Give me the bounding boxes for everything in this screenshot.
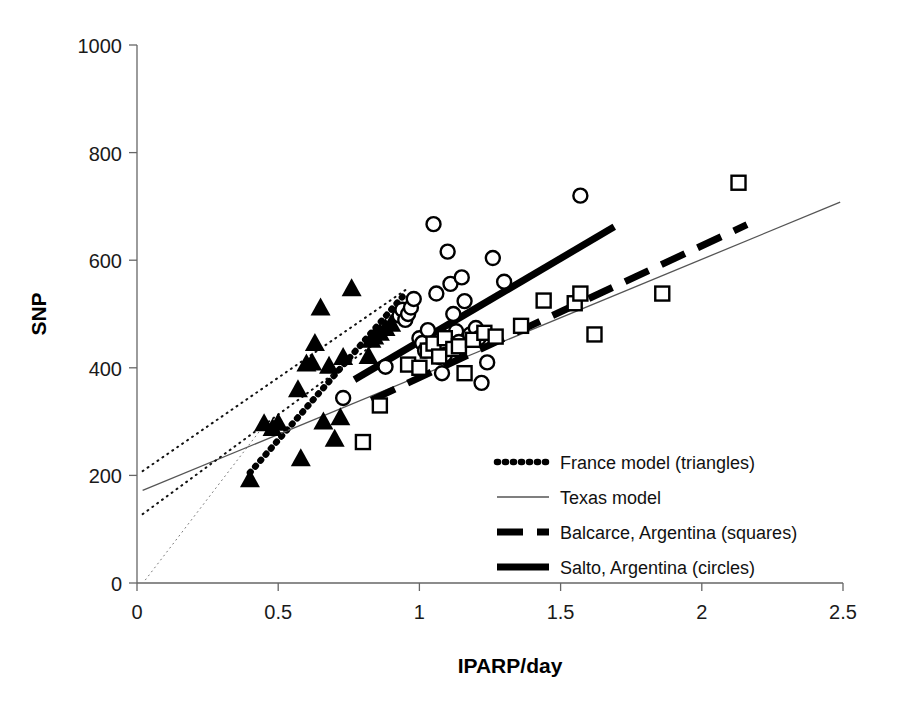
data-point-square	[412, 361, 426, 375]
data-point-triangle	[305, 333, 325, 351]
data-point-square	[489, 330, 503, 344]
legend-label: Texas model	[560, 488, 661, 508]
x-tick-label: 1	[414, 601, 425, 623]
data-point-circle	[336, 391, 350, 405]
data-point-circle	[407, 292, 421, 306]
x-tick-label: 2	[696, 601, 707, 623]
data-point-triangle	[342, 278, 362, 296]
data-point-circle	[486, 251, 500, 265]
data-point-circle	[497, 275, 511, 289]
x-tick-label: 2.5	[829, 601, 857, 623]
data-point-circle	[379, 360, 393, 374]
data-point-square	[655, 287, 669, 301]
y-tick-label: 1000	[78, 35, 123, 57]
data-point-square	[373, 398, 387, 412]
x-tick-label: 0.5	[264, 601, 292, 623]
data-point-triangle	[311, 298, 331, 316]
legend-label: Balcarce, Argentina (squares)	[560, 523, 797, 543]
data-point-circle	[446, 307, 460, 321]
y-tick-label: 0	[111, 573, 122, 595]
legend-label: France model (triangles)	[560, 453, 755, 473]
data-point-circle	[421, 323, 435, 337]
data-point-square	[356, 435, 370, 449]
fit-line	[143, 327, 397, 514]
x-axis-title: IPARP/day	[458, 654, 563, 677]
chart-figure: 0200400600800100000.511.522.5IPARP/daySN…	[0, 0, 900, 708]
legend-label: Salto, Argentina (circles)	[560, 558, 755, 578]
data-point-square	[537, 294, 551, 308]
data-point-square	[432, 350, 446, 364]
data-point-triangle	[240, 469, 260, 487]
data-point-triangle	[313, 412, 333, 430]
fit-line	[145, 422, 266, 580]
y-tick-label: 600	[89, 250, 122, 272]
data-point-circle	[441, 245, 455, 259]
data-point-triangle	[288, 379, 308, 397]
data-point-circle	[480, 355, 494, 369]
x-tick-label: 0	[131, 601, 142, 623]
data-point-circle	[429, 287, 443, 301]
data-point-triangle	[359, 346, 379, 364]
data-point-circle	[458, 294, 472, 308]
data-point-triangle	[325, 429, 345, 447]
scatter-plot: 0200400600800100000.511.522.5IPARP/daySN…	[0, 0, 900, 708]
y-tick-label: 400	[89, 358, 122, 380]
data-point-circle	[427, 217, 441, 231]
data-point-circle	[475, 376, 489, 390]
data-point-square	[732, 176, 746, 190]
data-point-square	[458, 366, 472, 380]
data-point-square	[514, 319, 528, 333]
data-point-square	[573, 287, 587, 301]
x-tick-label: 1.5	[547, 601, 575, 623]
y-tick-label: 200	[89, 465, 122, 487]
y-axis-title: SNP	[27, 292, 50, 335]
data-point-circle	[455, 270, 469, 284]
y-tick-label: 800	[89, 143, 122, 165]
data-point-square	[452, 339, 466, 353]
data-point-square	[587, 327, 601, 341]
fit-line	[371, 225, 747, 400]
data-point-triangle	[330, 407, 350, 425]
data-point-circle	[573, 189, 587, 203]
data-point-circle	[435, 366, 449, 380]
data-point-triangle	[291, 448, 311, 466]
